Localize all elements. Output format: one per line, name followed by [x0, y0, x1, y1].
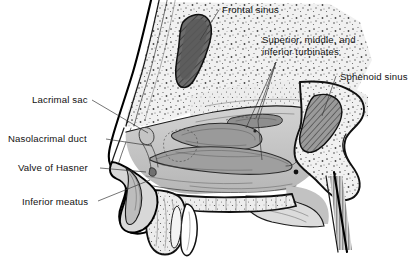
incisor-tooth — [181, 204, 198, 256]
label-turbinates-line2: inferior turbinates — [262, 46, 339, 57]
maxillary-ostium — [253, 129, 256, 132]
valve-of-hasner-mark — [149, 168, 156, 176]
label-nasolacrimal-duct: Nasolacrimal duct — [8, 133, 87, 144]
sphenoid-ostium — [294, 170, 299, 175]
label-turbinates-line1: Superior, middle, and — [262, 34, 356, 45]
anatomical-figure: Frontal sinus Superior, middle, and infe… — [0, 0, 412, 257]
label-lacrimal-sac: Lacrimal sac — [32, 94, 88, 105]
label-inferior-meatus: Inferior meatus — [22, 196, 88, 207]
label-frontal-sinus: Frontal sinus — [222, 4, 279, 15]
lacrimal-sac-shape — [139, 127, 154, 144]
label-sphenoid-sinus: Sphenoid sinus — [340, 71, 408, 82]
label-valve-of-hasner: Valve of Hasner — [18, 162, 88, 173]
